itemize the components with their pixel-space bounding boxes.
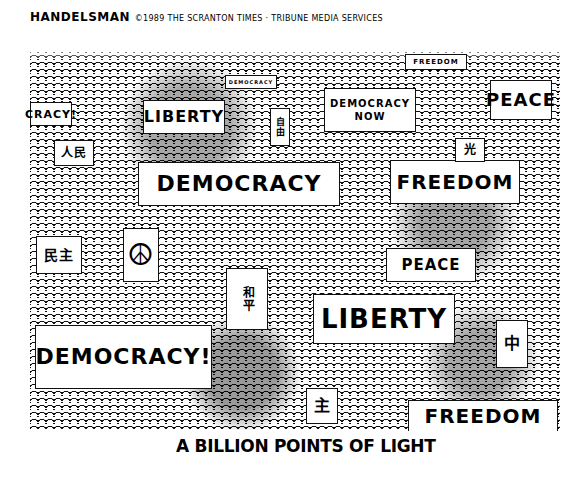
crowd-top-fade: [30, 42, 560, 62]
glyph-sign-2: 自由: [270, 108, 290, 146]
sign-liberty-lower: LIBERTY: [313, 294, 455, 344]
sign-peace-middle: PEACE: [386, 248, 476, 282]
sign-democracy-small: DEMOCRACY: [225, 75, 277, 89]
glyph-sign-7: 主: [306, 388, 338, 424]
sign-freedom-center-right: FREEDOM: [390, 160, 520, 204]
sign-freedom-bottom: FREEDOM: [408, 400, 558, 431]
sign-cracy: CRACY!: [30, 102, 72, 126]
sign-peace-upper: PEACE: [490, 80, 552, 120]
sign-democracy-now: DEMOCRACY NOW: [324, 88, 416, 132]
copyright-credit: ©1989 THE SCRANTON TIMES · TRIBUNE MEDIA…: [135, 14, 383, 23]
sign-peace-symbol: ☮: [123, 228, 159, 282]
glyph-sign-1: 人民: [54, 140, 94, 166]
cartoon-caption: A BILLION POINTS OF LIGHT: [176, 436, 436, 456]
sign-liberty-upper: LIBERTY: [143, 100, 225, 134]
sign-freedom-small: FREEDOM: [405, 54, 467, 70]
glyph-sign-3: 民主: [36, 236, 82, 274]
glyph-sign-4: 和平: [226, 268, 268, 330]
sign-democracy-center: DEMOCRACY: [138, 162, 340, 206]
sign-democracy-lower: DEMOCRACY!: [35, 325, 212, 389]
glyph-sign-6: 光: [455, 138, 485, 162]
artist-signature: HANDELSMAN: [30, 10, 130, 24]
header: HANDELSMAN ©1989 THE SCRANTON TIMES · TR…: [30, 10, 383, 24]
glyph-sign-5: 中: [496, 320, 528, 368]
